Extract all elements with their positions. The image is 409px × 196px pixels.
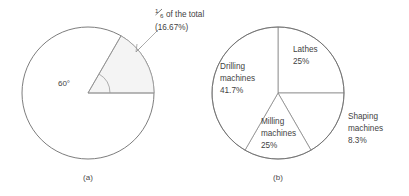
panel-b-slice-lathes xyxy=(278,27,344,93)
panel-a-angle-label: 60° xyxy=(58,79,70,88)
panel-b-shaping-name-line2: machines xyxy=(348,124,383,133)
panel-b-shaping-pct: 8.3% xyxy=(348,136,367,145)
pie-charts-figure: 60° 1 6 of the total (16.67%) (a) xyxy=(0,0,409,196)
panel-b-lathes-name: Lathes xyxy=(293,45,318,54)
panel-a-note-line1: of the total xyxy=(166,10,204,19)
panel-b-milling-pct: 25% xyxy=(261,141,277,150)
panel-a-note: 1 6 of the total (16.67%) xyxy=(155,7,204,32)
panel-a-fraction-denominator: 6 xyxy=(160,12,164,19)
panel-a-fraction-numerator: 1 xyxy=(155,7,159,14)
panel-a-caption: (a) xyxy=(83,173,93,182)
panel-b-drilling-name-line1: Drilling xyxy=(220,62,245,71)
panel-b-drilling-name-line2: machines xyxy=(220,74,255,83)
panel-b-drilling-pct: 41.7% xyxy=(220,86,243,95)
panel-a: 60° 1 6 of the total (16.67%) (a) xyxy=(22,7,204,182)
panel-b-shaping-name-line1: Shaping xyxy=(348,112,378,121)
panel-a-note-line2: (16.67%) xyxy=(155,23,188,32)
figure-root: 60° 1 6 of the total (16.67%) (a) xyxy=(0,0,409,196)
panel-b-caption: (b) xyxy=(273,173,283,182)
panel-b-lathes-pct: 25% xyxy=(293,57,309,66)
panel-b-milling-name-line2: machines xyxy=(261,129,296,138)
panel-b-milling-name-line1: Milling xyxy=(261,117,285,126)
panel-b-label-shaping: Shaping machines 8.3% xyxy=(348,112,383,145)
panel-b: Lathes 25% Drilling machines 41.7% Milli… xyxy=(212,27,383,182)
